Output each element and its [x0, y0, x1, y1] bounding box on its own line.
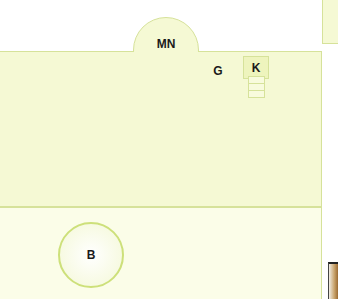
adjacent-room-top-right — [322, 0, 338, 44]
stack-divider — [249, 90, 264, 91]
area-k-stack-icon — [248, 76, 265, 98]
label-k: K — [248, 61, 264, 75]
label-g: G — [210, 64, 226, 78]
alcove-mn-opening — [134, 51, 198, 63]
label-b: B — [83, 248, 99, 262]
main-room[interactable] — [0, 51, 322, 208]
stack-divider — [249, 83, 264, 84]
photo-thumbnail — [328, 262, 338, 299]
lower-room[interactable] — [0, 208, 322, 299]
label-mn: MN — [148, 37, 184, 51]
